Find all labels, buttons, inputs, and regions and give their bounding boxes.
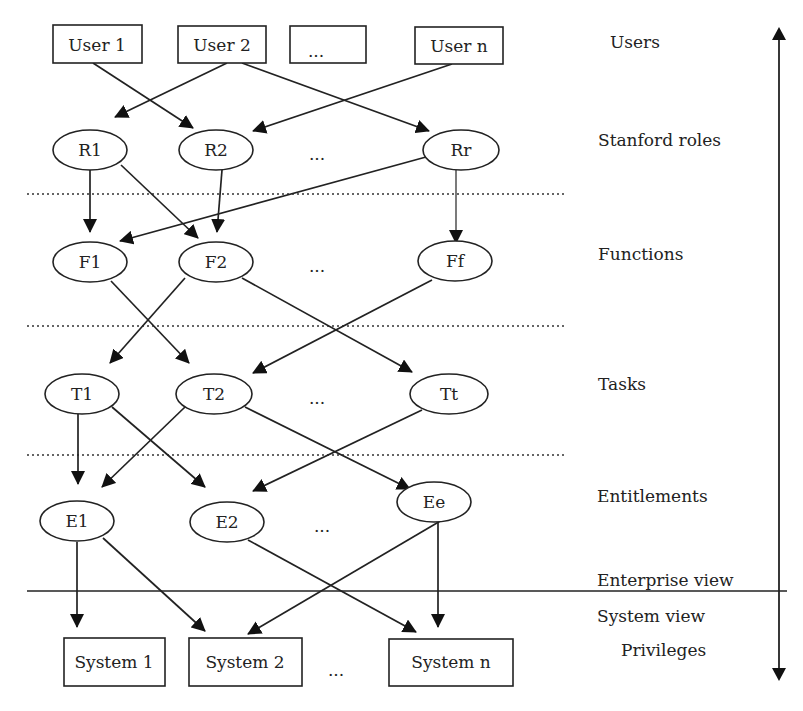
ellipsis-label: ... (308, 41, 324, 61)
user-label: User 2 (193, 35, 250, 55)
task-node[interactable]: T1 (45, 374, 119, 414)
user-node[interactable]: User n (415, 27, 503, 64)
entitlement-node[interactable]: E2 (190, 502, 264, 542)
arrow-down-icon (772, 668, 786, 681)
layer-label-system-view: System view (597, 606, 705, 626)
ellipsis-label: ... (309, 256, 325, 276)
layer-label-enterprise-view: Enterprise view (597, 570, 734, 590)
task-label: Tt (440, 384, 458, 404)
task-label: T2 (203, 384, 225, 404)
ellipsis-label: ... (309, 144, 325, 164)
tasks-layer: T1 T2 ... Tt (45, 374, 488, 414)
rbac-layer-diagram: User 1 User 2 ... User n R1 R2 ... Rr (0, 0, 803, 711)
function-label: F2 (205, 252, 228, 272)
functions-layer: F1 F2 ... Ff (53, 241, 492, 282)
task-label: T1 (71, 384, 93, 404)
layer-label-users: Users (610, 32, 660, 52)
edges (77, 63, 456, 634)
layer-label-roles: Stanford roles (598, 130, 721, 150)
system-node[interactable]: System n (389, 639, 513, 686)
entitlement-label: E1 (65, 511, 88, 531)
layer-label-entitlements: Entitlements (597, 486, 708, 506)
user-node[interactable]: User 2 (178, 26, 266, 63)
vertical-scope-arrow (772, 27, 786, 681)
function-node[interactable]: Ff (418, 241, 492, 281)
layer-separators (27, 194, 567, 455)
layer-labels: Users Stanford roles Functions Tasks Ent… (597, 32, 734, 660)
system-label: System 1 (74, 652, 153, 672)
entitlement-node[interactable]: E1 (40, 501, 114, 541)
arrow-up-icon (772, 27, 786, 40)
function-node[interactable]: F1 (53, 242, 127, 282)
ellipsis-label: ... (309, 388, 325, 408)
function-label: F1 (79, 252, 102, 272)
layer-label-functions: Functions (598, 244, 683, 264)
function-node[interactable]: F2 (179, 242, 253, 282)
role-label: R2 (204, 140, 228, 160)
user-label: User n (430, 36, 488, 56)
system-label: System n (411, 652, 490, 672)
users-layer: User 1 User 2 ... User n (53, 25, 503, 64)
role-node[interactable]: R2 (179, 130, 253, 170)
ellipsis-label: ... (314, 516, 330, 536)
task-node[interactable]: Tt (410, 374, 488, 414)
user-node[interactable]: User 1 (53, 25, 142, 63)
system-node[interactable]: System 2 (189, 638, 302, 686)
layer-label-privileges: Privileges (621, 640, 706, 660)
entitlement-label: E2 (215, 512, 238, 532)
entitlement-label: Ee (423, 492, 445, 512)
function-label: Ff (446, 251, 466, 271)
ellipsis-label: ... (328, 660, 344, 680)
role-label: Rr (451, 140, 473, 160)
task-node[interactable]: T2 (176, 374, 252, 414)
user-node-ellipsis: ... (290, 26, 366, 63)
layer-label-tasks: Tasks (598, 374, 646, 394)
entitlement-node[interactable]: Ee (397, 482, 471, 522)
role-node[interactable]: Rr (423, 130, 499, 170)
entitlements-layer: E1 E2 ... Ee (40, 482, 471, 542)
roles-layer: R1 R2 ... Rr (53, 130, 499, 170)
user-label: User 1 (68, 35, 125, 55)
system-node[interactable]: System 1 (64, 638, 165, 686)
role-label: R1 (78, 140, 102, 160)
systems-layer: System 1 System 2 ... System n (64, 638, 513, 686)
system-label: System 2 (205, 652, 284, 672)
role-node[interactable]: R1 (53, 130, 127, 170)
